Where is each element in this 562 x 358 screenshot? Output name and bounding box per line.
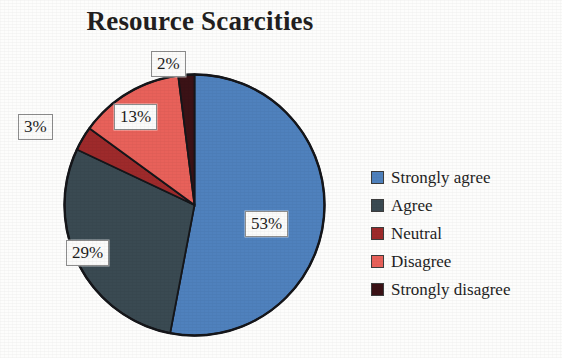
- data-label-strongly-disagree: 2%: [151, 51, 186, 77]
- pie-chart-figure: Resource Scarcities 2% 3% 13% 29% 53% St…: [0, 0, 562, 358]
- legend-swatch-icon: [371, 171, 384, 184]
- legend-item-neutral[interactable]: Neutral: [371, 219, 561, 247]
- legend-swatch-icon: [371, 255, 384, 268]
- legend-item-label: Disagree: [391, 253, 451, 270]
- pie-svg: [63, 73, 326, 337]
- legend-swatch-icon: [371, 283, 384, 296]
- legend-item-label: Agree: [391, 197, 433, 214]
- pie-chart-plot-area: [63, 73, 326, 337]
- legend-item-agree[interactable]: Agree: [371, 191, 561, 219]
- chart-legend: Strongly agreeAgreeNeutralDisagreeStrong…: [371, 163, 561, 303]
- legend-item-strongly-disagree[interactable]: Strongly disagree: [371, 275, 561, 303]
- legend-swatch-icon: [371, 227, 384, 240]
- legend-item-label: Strongly disagree: [391, 281, 510, 298]
- data-label-strongly-agree: 53%: [245, 211, 288, 237]
- pie-slices: [64, 75, 324, 336]
- data-label-agree: 29%: [66, 240, 109, 266]
- chart-title: Resource Scarcities: [0, 6, 400, 37]
- legend-item-disagree[interactable]: Disagree: [371, 247, 561, 275]
- data-label-neutral: 3%: [18, 114, 53, 140]
- data-label-disagree: 13%: [114, 104, 157, 130]
- legend-item-strongly-agree[interactable]: Strongly agree: [371, 163, 561, 191]
- legend-item-label: Strongly agree: [391, 169, 491, 186]
- legend-swatch-icon: [371, 199, 384, 212]
- legend-item-label: Neutral: [391, 225, 442, 242]
